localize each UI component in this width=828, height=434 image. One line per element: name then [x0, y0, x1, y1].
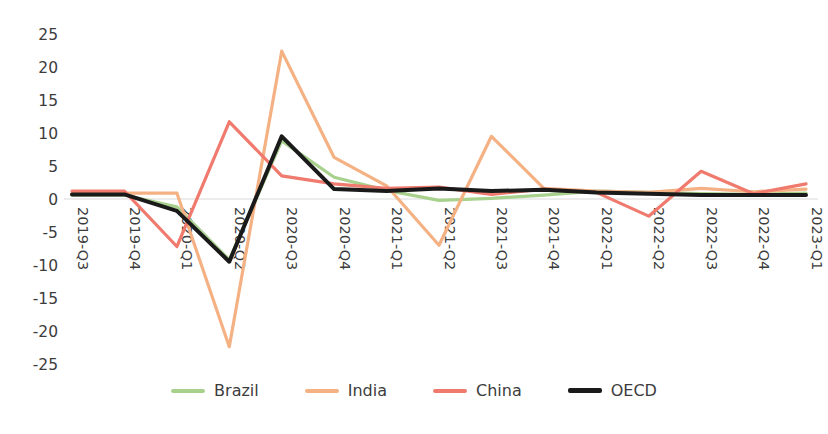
legend-item-china[interactable]: China: [433, 381, 522, 400]
x-tick-label: 2022-Q4: [756, 207, 772, 270]
legend-label: India: [348, 381, 387, 400]
legend-item-india[interactable]: India: [305, 381, 387, 400]
x-tick-label: 2019-Q4: [127, 207, 143, 270]
legend-label: Brazil: [214, 381, 259, 400]
x-tick-label: 2022-Q1: [599, 207, 615, 270]
y-tick-label: -20: [33, 323, 58, 341]
y-tick-label: 15: [38, 92, 58, 110]
chart-legend: BrazilIndiaChinaOECD: [0, 381, 828, 400]
x-tick-label: 2021-Q3: [494, 207, 510, 270]
legend-label: China: [476, 381, 522, 400]
x-tick-label: 2021-Q1: [389, 207, 405, 270]
x-tick-label: 2022-Q2: [651, 207, 667, 270]
legend-swatch-icon: [433, 389, 467, 393]
legend-swatch-icon: [568, 388, 602, 393]
legend-item-oecd[interactable]: OECD: [568, 381, 657, 400]
y-tick-label: -15: [33, 290, 58, 308]
line-chart: 2520151050-5-10-15-20-25 2019-Q32019-Q42…: [0, 0, 828, 434]
x-tick-label: 2019-Q3: [75, 207, 91, 270]
y-tick-label: -10: [33, 257, 58, 275]
legend-swatch-icon: [305, 389, 339, 393]
y-tick-label: 5: [48, 158, 58, 176]
legend-swatch-icon: [171, 389, 205, 393]
y-tick-label: 25: [38, 26, 58, 44]
legend-label: OECD: [611, 381, 657, 400]
x-tick-label: 2020-Q4: [337, 207, 353, 270]
y-tick-label: 20: [38, 59, 58, 77]
y-tick-label: -25: [33, 356, 58, 374]
y-tick-label: 0: [48, 191, 58, 209]
x-tick-label: 2022-Q3: [704, 207, 720, 270]
y-axis-tick-labels: 2520151050-5-10-15-20-25: [33, 26, 58, 374]
y-tick-label: 10: [38, 125, 58, 143]
legend-item-brazil[interactable]: Brazil: [171, 381, 259, 400]
y-tick-label: -5: [43, 224, 58, 242]
x-tick-label: 2020-Q3: [284, 207, 300, 270]
x-tick-label: 2023-Q1: [809, 207, 825, 270]
chart-canvas: 2520151050-5-10-15-20-25 2019-Q32019-Q42…: [0, 0, 828, 434]
x-tick-label: 2021-Q4: [546, 207, 562, 270]
